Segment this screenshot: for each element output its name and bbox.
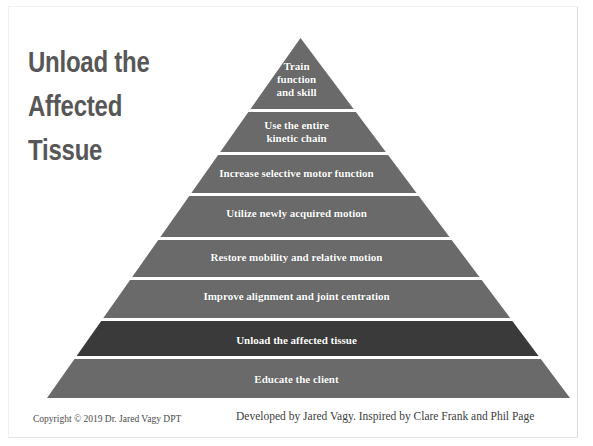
copyright-text: Copyright © 2019 Dr. Jared Vagy DPT bbox=[33, 414, 181, 424]
pyramid-band-level-6 bbox=[103, 280, 510, 318]
pyramid-band-level-1 bbox=[251, 38, 354, 109]
pyramid-band-level-5 bbox=[132, 240, 479, 277]
pyramid-diagram bbox=[0, 0, 593, 446]
pyramid-band-level-8 bbox=[47, 359, 570, 398]
pyramid-band-level-3 bbox=[191, 155, 416, 193]
pyramid-band-level-4 bbox=[160, 196, 449, 237]
slide-canvas: Unload the Affected Tissue Train functio… bbox=[0, 0, 593, 446]
pyramid-band-level-2 bbox=[220, 112, 386, 152]
pyramid-band-level-7 bbox=[77, 321, 539, 356]
credit-text: Developed by Jared Vagy. Inspired by Cla… bbox=[236, 410, 534, 422]
